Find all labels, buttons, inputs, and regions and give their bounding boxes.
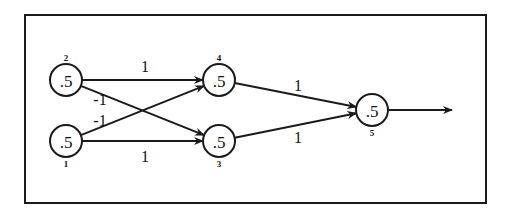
node-index-label: 4	[217, 53, 222, 63]
node-4: .54	[203, 53, 235, 96]
edge-weight-label: 1	[141, 58, 149, 75]
edge-weight-label: 1	[294, 129, 302, 146]
node-threshold-value: .5	[60, 133, 73, 152]
node-threshold-value: .5	[213, 133, 226, 152]
node-2: .52	[50, 53, 82, 96]
node-index-label: 5	[370, 128, 375, 138]
edge-labels-layer: 11-1-111	[93, 58, 302, 165]
node-index-label: 2	[64, 53, 69, 63]
node-3: .53	[203, 125, 235, 169]
edge-weight-label: 1	[141, 148, 149, 165]
node-5: .55	[356, 94, 388, 138]
node-index-label: 1	[64, 159, 69, 169]
node-threshold-value: .5	[60, 72, 73, 91]
node-1: .51	[50, 125, 82, 169]
neural-network-diagram: 11-1-111 .51.52.53.54.55	[0, 0, 513, 212]
node-index-label: 3	[217, 159, 222, 169]
node-threshold-value: .5	[366, 102, 379, 121]
edge-weight-label: -1	[93, 112, 106, 129]
node-threshold-value: .5	[213, 72, 226, 91]
edge-weight-label: 1	[294, 77, 302, 94]
edge-weight-label: -1	[93, 91, 106, 108]
